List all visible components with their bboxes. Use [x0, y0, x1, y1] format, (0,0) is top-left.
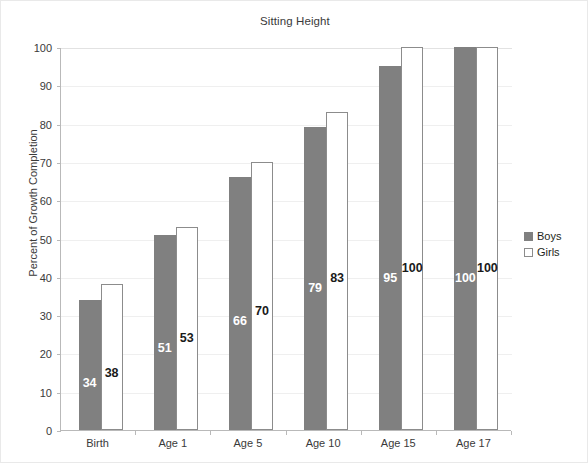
gridline: [61, 240, 512, 241]
y-tick-label: 30: [14, 311, 52, 322]
y-tick-label: 0: [14, 426, 52, 437]
gridline: [61, 86, 512, 87]
bar-group: 5153: [154, 47, 198, 430]
bar-group: 100100: [454, 47, 498, 430]
y-tick-label: 70: [14, 157, 52, 168]
y-tick-mark: [57, 278, 61, 279]
x-tick-mark: [361, 431, 362, 435]
y-tick-mark: [57, 431, 61, 432]
outlined-white-square-icon: [524, 248, 533, 257]
x-tick-mark: [511, 431, 512, 435]
chart-legend: BoysGirls: [524, 230, 561, 262]
plot-area: 0102030405060708090100 34385153667079839…: [60, 48, 511, 431]
legend-item-label: Girls: [537, 246, 560, 258]
bar-value-label-girls: 70: [242, 305, 282, 318]
y-tick-label: 60: [14, 196, 52, 207]
bar-value-label-girls: 53: [167, 332, 207, 345]
x-tick-mark: [436, 431, 437, 435]
bar-girls[interactable]: [476, 47, 498, 430]
bar-girls[interactable]: [251, 162, 273, 430]
y-tick-mark: [57, 86, 61, 87]
bar-group: 3438: [79, 47, 123, 430]
y-tick-mark: [57, 48, 61, 49]
gridline: [61, 163, 512, 164]
gridline: [61, 201, 512, 202]
bar-value-label-girls: 100: [467, 262, 507, 275]
y-tick-mark: [57, 240, 61, 241]
y-tick-label: 10: [14, 387, 52, 398]
bar-girls[interactable]: [176, 227, 198, 430]
y-tick-label: 20: [14, 349, 52, 360]
bar-boys[interactable]: [79, 300, 101, 430]
bar-boys[interactable]: [454, 47, 476, 430]
bar-boys[interactable]: [379, 66, 401, 430]
y-tick-mark: [57, 316, 61, 317]
y-tick-mark: [57, 354, 61, 355]
bar-group: 7983: [304, 47, 348, 430]
gridline: [61, 393, 512, 394]
y-tick-label: 80: [14, 119, 52, 130]
y-tick-label: 50: [14, 234, 52, 245]
y-tick-label: 40: [14, 272, 52, 283]
gridline: [61, 125, 512, 126]
gridline: [61, 48, 512, 49]
bar-boys[interactable]: [229, 177, 251, 430]
legend-item-label: Boys: [537, 230, 561, 242]
gridline: [61, 278, 512, 279]
y-tick-label: 100: [14, 43, 52, 54]
gridline: [61, 316, 512, 317]
y-tick-mark: [57, 393, 61, 394]
gridline: [61, 354, 512, 355]
y-tick-label: 90: [14, 81, 52, 92]
x-tick-label: Age 17: [428, 437, 518, 449]
y-tick-mark: [57, 201, 61, 202]
page-title: Sitting Height: [1, 15, 588, 27]
x-tick-mark: [135, 431, 136, 435]
bar-girls[interactable]: [101, 284, 123, 430]
y-tick-mark: [57, 125, 61, 126]
legend-item-girls[interactable]: Girls: [524, 246, 561, 258]
bar-girls[interactable]: [401, 47, 423, 430]
bar-value-label-girls: 100: [392, 262, 432, 275]
filled-gray-square-icon: [524, 232, 533, 241]
bar-group: 6670: [229, 47, 273, 430]
y-tick-mark: [57, 163, 61, 164]
bar-group: 95100: [379, 47, 423, 430]
chart-figure: Sitting Height Percent of Growth Complet…: [0, 0, 588, 463]
x-tick-mark: [210, 431, 211, 435]
legend-item-boys[interactable]: Boys: [524, 230, 561, 242]
bar-value-label-girls: 83: [317, 272, 357, 285]
bar-value-label-girls: 38: [92, 367, 132, 380]
x-tick-mark: [286, 431, 287, 435]
